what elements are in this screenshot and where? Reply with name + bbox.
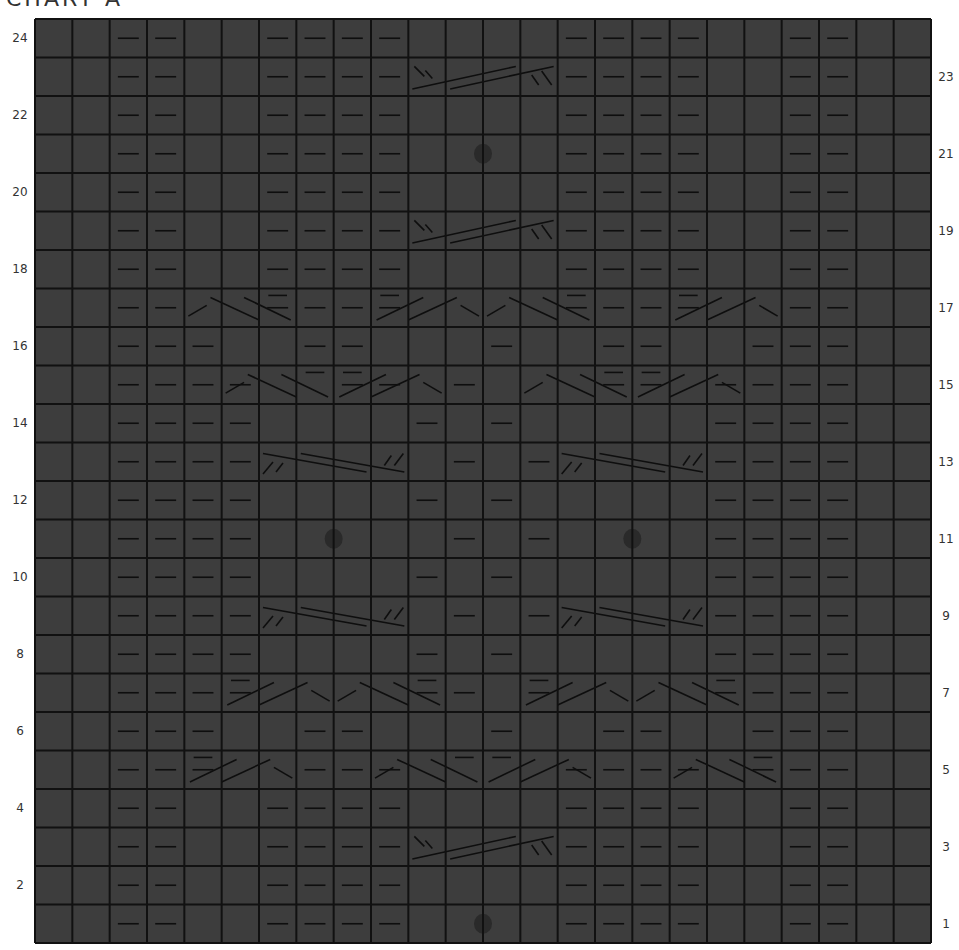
row-label-left: 10 xyxy=(12,570,27,584)
row-label-left: 2 xyxy=(16,878,24,892)
row-label-right: 13 xyxy=(938,455,953,469)
row-label-right: 23 xyxy=(938,70,953,84)
row-label-right: 11 xyxy=(938,532,953,546)
row-label-right: 7 xyxy=(942,686,950,700)
row-label-right: 3 xyxy=(942,840,950,854)
row-label-left: 4 xyxy=(16,801,24,815)
row-label-left: 12 xyxy=(12,493,27,507)
row-label-right: 9 xyxy=(942,609,950,623)
row-label-left: 24 xyxy=(12,31,27,45)
row-label-left: 8 xyxy=(16,647,24,661)
row-label-left: 18 xyxy=(12,262,27,276)
row-label-right: 15 xyxy=(938,378,953,392)
row-label-right: 19 xyxy=(938,224,953,238)
row-label-left: 16 xyxy=(12,339,27,353)
row-label-left: 14 xyxy=(12,416,27,430)
row-label-left: 22 xyxy=(12,108,27,122)
knitting-chart: 246810121416182022241357911131517192123 xyxy=(0,0,959,950)
row-label-right: 1 xyxy=(942,917,950,931)
row-label-right: 17 xyxy=(938,301,953,315)
row-label-left: 20 xyxy=(12,185,27,199)
row-label-right: 5 xyxy=(942,763,950,777)
row-label-left: 6 xyxy=(16,724,24,738)
row-label-right: 21 xyxy=(938,147,953,161)
